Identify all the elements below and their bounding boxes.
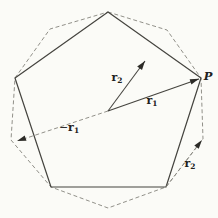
point-p-label: P	[204, 71, 213, 83]
figure-container: r2 r1 −r1 r2 P	[0, 0, 218, 218]
diagram-canvas	[0, 0, 218, 218]
r2-vector-line	[108, 61, 145, 111]
r1-vector-label: r1	[146, 95, 157, 108]
r2-vector-label: r2	[111, 72, 122, 85]
r1-arrowhead-icon	[190, 79, 199, 85]
neg-r1-vector-label: −r1	[59, 122, 79, 135]
r2-edge-arrowhead-icon	[194, 140, 202, 149]
dashed-decagon-outline	[11, 12, 203, 208]
neg-r1-arrowhead-icon	[17, 136, 27, 142]
r2-edge-vector-label: r2	[184, 158, 195, 171]
r2-arrowhead-icon	[137, 61, 145, 70]
